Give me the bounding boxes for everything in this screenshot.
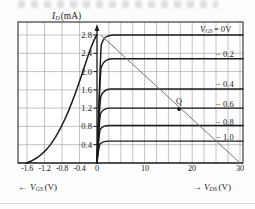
x-axis-left-subscript: GS xyxy=(36,186,43,192)
curve-label-minus-0-2: − 0.2 xyxy=(216,50,234,59)
x-tick-left--0-4: -0.4 xyxy=(71,165,89,173)
curve-label-minus-0-8: − 0.8 xyxy=(216,118,234,127)
legend-subscript: GS xyxy=(205,28,212,34)
x-tick-left--1-6: -1.6 xyxy=(18,165,36,173)
curve-label-minus-1-0: − 1.0 xyxy=(216,133,234,142)
x-axis-left-label: ←VGS(V) xyxy=(18,182,57,192)
curve-label-minus-0-4: − 0.4 xyxy=(216,80,234,89)
x-tick-origin-0: 0 xyxy=(90,165,104,173)
left-arrow-icon: ← xyxy=(18,181,27,192)
x-tick-right-10: 10 xyxy=(138,165,152,173)
y-tick-2-8: 2.8 xyxy=(72,31,92,40)
x-axis-left-unit: (V) xyxy=(44,182,57,192)
x-tick-right-20: 20 xyxy=(185,165,199,173)
curve-label-vgs-0: VGS= 0V xyxy=(200,25,231,35)
x-axis-right-label: →VDS(V) xyxy=(192,182,231,192)
q-point-marker xyxy=(177,107,181,111)
figure-panel: ID(mA) 2.8 2.4 2.0 1.6 1.2 0.8 0.4 -1.6 … xyxy=(0,0,255,209)
legend-value: = 0V xyxy=(214,24,232,34)
curve-label-minus-0-6: − 0.6 xyxy=(216,100,234,109)
y-axis-title-unit: (mA) xyxy=(61,11,81,21)
y-tick-2-0: 2.0 xyxy=(72,68,92,77)
y-axis-title: ID(mA) xyxy=(52,12,81,22)
right-arrow-icon: → xyxy=(192,181,201,192)
y-tick-0-4: 0.4 xyxy=(72,141,92,150)
x-axis-right-unit: (V) xyxy=(218,182,231,192)
x-tick-right-30: 30 xyxy=(233,165,247,173)
x-tick-left--0-8: -0.8 xyxy=(53,165,71,173)
x-tick-left--1-2: -1.2 xyxy=(36,165,54,173)
x-axis-right-subscript: DS xyxy=(210,186,217,192)
y-tick-1-2: 1.2 xyxy=(72,104,92,113)
q-point-label: Q xyxy=(176,98,182,106)
y-tick-1-6: 1.6 xyxy=(72,86,92,95)
y-axis-title-subscript: D xyxy=(55,14,60,21)
y-tick-0-8: 0.8 xyxy=(72,122,92,131)
y-tick-2-4: 2.4 xyxy=(72,49,92,58)
